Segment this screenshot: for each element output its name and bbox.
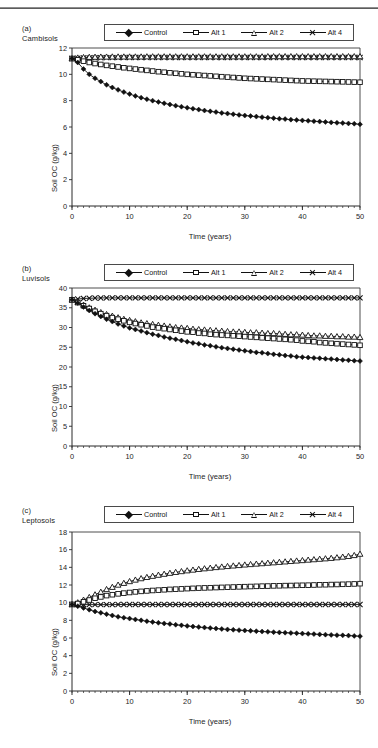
legend-item-alt1[interactable]: Alt 1	[183, 28, 225, 37]
svg-text:10: 10	[59, 598, 67, 607]
legend-label-alt4: Alt 4	[328, 510, 342, 519]
svg-text:5: 5	[63, 422, 67, 431]
legend-label-control: Control	[144, 28, 167, 37]
open-square-icon	[183, 28, 209, 37]
svg-text:2: 2	[63, 669, 67, 678]
open-triangle-icon	[241, 28, 267, 37]
svg-text:10: 10	[59, 70, 67, 79]
svg-text:14: 14	[59, 563, 67, 572]
panel-c-label: (c) Leptosols	[22, 506, 55, 525]
top-divider-rule	[0, 7, 378, 9]
svg-text:40: 40	[298, 212, 306, 221]
legend-panel-b: Control Alt 1 Alt 2 Alt 4	[104, 264, 354, 281]
svg-text:25: 25	[59, 343, 67, 352]
filled-diamond-icon	[116, 28, 142, 37]
panel-cambisols: (a) Cambisols Control Alt 1 Alt 2 Alt 4 …	[0, 18, 378, 250]
legend-item-alt4[interactable]: Alt 4	[300, 510, 342, 519]
legend-label-alt1: Alt 1	[211, 28, 225, 37]
open-square-icon	[183, 510, 209, 519]
svg-text:30: 30	[59, 323, 67, 332]
svg-text:16: 16	[59, 545, 67, 554]
legend-item-alt4[interactable]: Alt 4	[300, 28, 342, 37]
svg-text:0: 0	[70, 697, 74, 706]
svg-text:20: 20	[183, 697, 191, 706]
svg-text:50: 50	[356, 697, 364, 706]
open-square-icon	[183, 268, 209, 277]
svg-text:6: 6	[63, 634, 67, 643]
chart-canvas-a: 02468101201020304050	[0, 44, 378, 230]
legend-item-control[interactable]: Control	[116, 510, 167, 519]
x-axis-title-c: Time (years)	[60, 717, 360, 726]
chart-canvas-b: 051015202530354001020304050	[0, 284, 378, 470]
svg-text:0: 0	[63, 442, 67, 451]
svg-text:0: 0	[63, 202, 67, 211]
svg-text:40: 40	[59, 284, 67, 293]
svg-text:0: 0	[70, 452, 74, 461]
figure-sheet: (a) Cambisols Control Alt 1 Alt 2 Alt 4 …	[0, 0, 378, 748]
svg-text:10: 10	[125, 452, 133, 461]
legend-label-alt2: Alt 2	[269, 28, 283, 37]
legend-item-alt4[interactable]: Alt 4	[300, 268, 342, 277]
svg-text:30: 30	[241, 452, 249, 461]
filled-diamond-icon	[116, 268, 142, 277]
filled-diamond-icon	[116, 510, 142, 519]
legend-label-control: Control	[144, 268, 167, 277]
svg-text:40: 40	[298, 452, 306, 461]
legend-label-alt2: Alt 2	[269, 268, 283, 277]
svg-text:20: 20	[59, 363, 67, 372]
legend-label-control: Control	[144, 510, 167, 519]
legend-item-control[interactable]: Control	[116, 268, 167, 277]
cross-x-icon	[300, 510, 326, 519]
svg-text:30: 30	[241, 212, 249, 221]
x-axis-title-b: Time (years)	[60, 472, 360, 481]
legend-item-control[interactable]: Control	[116, 28, 167, 37]
cross-x-icon	[300, 28, 326, 37]
legend-label-alt2: Alt 2	[269, 510, 283, 519]
svg-text:0: 0	[70, 212, 74, 221]
svg-text:20: 20	[183, 452, 191, 461]
legend-item-alt2[interactable]: Alt 2	[241, 510, 283, 519]
legend-label-alt1: Alt 1	[211, 268, 225, 277]
svg-text:15: 15	[59, 382, 67, 391]
svg-text:10: 10	[125, 697, 133, 706]
legend-label-alt4: Alt 4	[328, 268, 342, 277]
svg-text:4: 4	[63, 149, 67, 158]
svg-text:18: 18	[59, 528, 67, 537]
svg-text:30: 30	[241, 697, 249, 706]
svg-text:6: 6	[63, 123, 67, 132]
cross-x-icon	[300, 268, 326, 277]
svg-text:12: 12	[59, 581, 67, 590]
legend-item-alt1[interactable]: Alt 1	[183, 510, 225, 519]
x-axis-title-a: Time (years)	[60, 232, 360, 241]
svg-text:10: 10	[59, 402, 67, 411]
legend-panel-a: Control Alt 1 Alt 2 Alt 4	[104, 24, 354, 41]
legend-label-alt4: Alt 4	[328, 28, 342, 37]
svg-text:0: 0	[63, 687, 67, 696]
panel-luvisols: (b) Luvisols Control Alt 1 Alt 2 Alt 4 S…	[0, 258, 378, 490]
open-triangle-icon	[241, 268, 267, 277]
chart-canvas-c: 02468101214161801020304050	[0, 526, 378, 716]
svg-text:12: 12	[59, 44, 67, 53]
legend-item-alt2[interactable]: Alt 2	[241, 268, 283, 277]
svg-text:40: 40	[298, 697, 306, 706]
svg-text:50: 50	[356, 452, 364, 461]
legend-panel-c: Control Alt 1 Alt 2 Alt 4	[104, 506, 354, 523]
panel-a-label: (a) Cambisols	[22, 24, 58, 43]
svg-text:4: 4	[63, 651, 67, 660]
svg-text:8: 8	[63, 616, 67, 625]
open-triangle-icon	[241, 510, 267, 519]
panel-b-label: (b) Luvisols	[22, 264, 50, 283]
svg-text:10: 10	[125, 212, 133, 221]
svg-text:50: 50	[356, 212, 364, 221]
panel-leptosols: (c) Leptosols Control Alt 1 Alt 2 Alt 4 …	[0, 500, 378, 740]
svg-text:2: 2	[63, 175, 67, 184]
legend-item-alt2[interactable]: Alt 2	[241, 28, 283, 37]
legend-item-alt1[interactable]: Alt 1	[183, 268, 225, 277]
svg-text:8: 8	[63, 96, 67, 105]
legend-label-alt1: Alt 1	[211, 510, 225, 519]
svg-text:20: 20	[183, 212, 191, 221]
svg-text:35: 35	[59, 303, 67, 312]
